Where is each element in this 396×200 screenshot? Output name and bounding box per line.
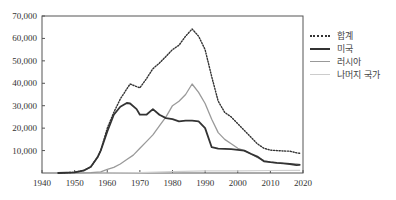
gray-line-swatch-icon (310, 61, 330, 62)
x-tick-label: 1980 (164, 178, 183, 188)
y-tick-label: 70,000 (12, 11, 37, 21)
legend-label: 나머지 국가 (337, 68, 380, 81)
legend-item-others: 나머지 국가 (310, 68, 380, 81)
x-tick-label: 2010 (261, 178, 280, 188)
chart-legend: 합계 미국 러시아 나머지 국가 (310, 29, 380, 81)
x-tick-label: 1970 (131, 178, 150, 188)
y-tick-label: 60,000 (12, 33, 37, 43)
x-tick-label: 1960 (98, 178, 117, 188)
x-tick-label: 1940 (33, 178, 52, 188)
plot-frame (42, 16, 303, 173)
legend-label: 러시아 (337, 55, 361, 68)
legend-label: 합계 (337, 29, 353, 42)
x-tick-label: 1950 (66, 178, 85, 188)
y-tick-label: 50,000 (12, 56, 37, 66)
x-tick-label: 2020 (294, 178, 313, 188)
chart-series (58, 29, 299, 173)
series-line-2 (58, 84, 299, 173)
y-tick-label: 20,000 (12, 123, 37, 133)
legend-item-total: 합계 (310, 29, 380, 42)
dotted-line-swatch-icon (310, 35, 330, 37)
x-tick-label: 2000 (229, 178, 248, 188)
y-tick-label: 30,000 (12, 101, 37, 111)
x-tick-label: 1990 (196, 178, 215, 188)
thick-line-swatch-icon (310, 48, 330, 50)
legend-label: 미국 (337, 42, 353, 55)
light-line-swatch-icon (310, 74, 330, 75)
y-tick-label: 10,000 (12, 146, 37, 156)
legend-item-usa: 미국 (310, 42, 380, 55)
legend-item-russia: 러시아 (310, 55, 380, 68)
y-tick-label: 40,000 (12, 78, 37, 88)
